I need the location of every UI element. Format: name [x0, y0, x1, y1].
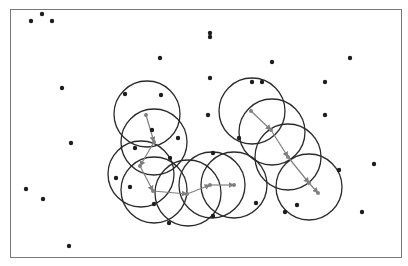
trajectory-start-point: [144, 113, 148, 117]
data-point: [67, 244, 71, 248]
data-point: [295, 203, 299, 207]
data-point: [250, 80, 254, 84]
trajectory-step-point: [138, 164, 142, 168]
trajectory-step-point: [286, 155, 290, 159]
data-point: [41, 197, 45, 201]
trajectory-step-point: [307, 181, 311, 185]
trajectory-step-point: [316, 191, 320, 195]
data-point: [128, 185, 132, 189]
data-point: [69, 141, 73, 145]
data-point: [50, 19, 54, 23]
data-point: [29, 19, 33, 23]
data-point: [260, 80, 264, 84]
data-point: [337, 168, 341, 172]
data-point: [323, 80, 327, 84]
data-point: [360, 210, 364, 214]
data-point: [152, 202, 156, 206]
trajectory-step-point: [185, 192, 189, 196]
data-point: [208, 35, 212, 39]
mean-shift-diagram: [0, 0, 408, 266]
data-point: [167, 221, 171, 225]
data-point: [211, 151, 215, 155]
trajectory-step-point: [269, 128, 273, 132]
data-point: [133, 146, 137, 150]
data-point: [270, 60, 274, 64]
data-point: [372, 162, 376, 166]
data-point: [237, 136, 241, 140]
data-point: [176, 136, 180, 140]
data-point: [348, 56, 352, 60]
data-point: [206, 113, 210, 117]
data-point: [168, 156, 172, 160]
data-point: [254, 201, 258, 205]
trajectory-start-point: [249, 109, 253, 113]
trajectory-step-point: [151, 189, 155, 193]
data-point: [150, 128, 154, 132]
trajectory-step-point: [152, 140, 156, 144]
data-point: [40, 12, 44, 16]
data-point: [158, 56, 162, 60]
data-point: [211, 214, 215, 218]
data-point: [208, 76, 212, 80]
trajectory-step-point: [232, 183, 236, 187]
trajectory-step-point: [208, 183, 212, 187]
data-point: [283, 210, 287, 214]
data-point: [24, 187, 28, 191]
data-point: [159, 93, 163, 97]
data-point: [208, 31, 212, 35]
data-point: [123, 92, 127, 96]
data-point: [114, 176, 118, 180]
data-point: [60, 86, 64, 90]
data-point: [323, 113, 327, 117]
